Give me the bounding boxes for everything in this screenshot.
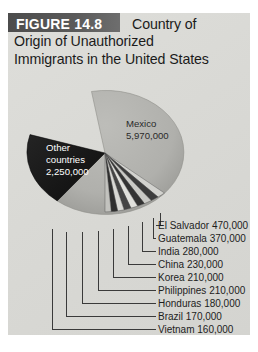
- legend-item-guatemala: Guatemala 370,000: [158, 233, 246, 244]
- legend-item-korea: Korea 210,000: [158, 272, 224, 283]
- callout-legend: El Salvador 470,000 Guatemala 370,000 In…: [8, 13, 250, 335]
- legend-item-vietnam: Vietnam 160,000: [158, 324, 233, 335]
- legend-item-china: China 230,000: [158, 259, 223, 270]
- figure-number-label: FIGURE 14.8: [16, 16, 102, 32]
- legend-item-honduras: Honduras 180,000: [158, 298, 240, 309]
- legend-item-brazil: Brazil 170,000: [158, 311, 222, 322]
- legend-item-philippines: Philippines 210,000: [158, 285, 245, 296]
- legend-item-india: India 280,000: [158, 246, 219, 257]
- figure-panel: FIGURE 14.8 Country of Origin of Unautho…: [8, 13, 250, 335]
- legend-item-el-salvador: El Salvador 470,000: [158, 220, 248, 231]
